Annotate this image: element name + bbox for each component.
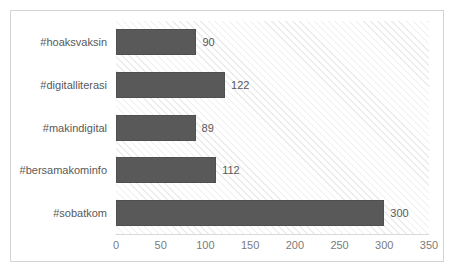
bar — [116, 200, 384, 226]
bar — [116, 72, 225, 98]
category-label: #bersamakominfo — [10, 157, 107, 183]
value-label: 122 — [231, 72, 249, 98]
bar — [116, 157, 216, 183]
bar — [116, 29, 196, 55]
xaxis-tick-label: 200 — [286, 239, 304, 251]
category-label: #digitalliterasi — [10, 72, 107, 98]
category-label: #hoaksvaksin — [10, 29, 107, 55]
category-label: #makindigital — [10, 115, 107, 141]
value-label: 300 — [390, 200, 408, 226]
xaxis-tick-label: 50 — [155, 239, 167, 251]
value-label: 89 — [202, 115, 214, 141]
bar — [116, 115, 196, 141]
xaxis-tick-label: 350 — [420, 239, 438, 251]
xaxis-tick-label: 300 — [375, 239, 393, 251]
value-label: 90 — [202, 29, 214, 55]
xaxis-tick-label: 100 — [196, 239, 214, 251]
xaxis-tick-label: 250 — [330, 239, 348, 251]
value-label: 112 — [222, 157, 240, 183]
xaxis-tick-label: 150 — [241, 239, 259, 251]
category-label: #sobatkom — [10, 200, 107, 226]
category-axis-line — [116, 234, 429, 235]
xaxis-tick-label: 0 — [113, 239, 119, 251]
chart-figure: #hoaksvaksin#digitalliterasi#makindigita… — [10, 10, 444, 262]
